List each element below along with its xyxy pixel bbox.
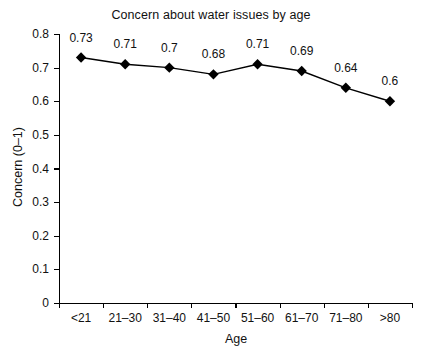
data-point-marker: [76, 52, 86, 62]
chart-container: Concern about water issues by age Concer…: [0, 0, 422, 358]
data-point-marker: [252, 59, 262, 69]
data-point-marker: [385, 96, 395, 106]
data-point-marker: [208, 69, 218, 79]
data-point-marker: [120, 59, 130, 69]
data-series: [76, 52, 395, 106]
data-point-marker: [164, 62, 174, 72]
data-point-marker: [341, 83, 351, 93]
axes: [54, 34, 413, 308]
data-point-marker: [296, 66, 306, 76]
plot-area: [0, 0, 422, 358]
x-axis-title: Age: [59, 332, 413, 346]
